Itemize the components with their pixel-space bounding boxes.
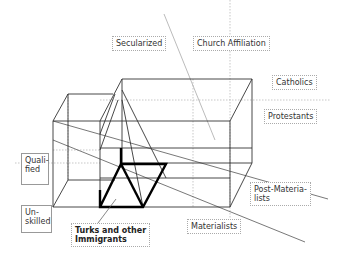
- label-turks-immigrants: Turks and other Immigrants: [71, 223, 150, 247]
- axis-lines: [53, 14, 328, 242]
- secularized-text: Secularized: [116, 39, 162, 48]
- label-catholics: Catholics: [272, 75, 317, 90]
- label-qualified: Quali- fied: [21, 153, 49, 185]
- post-materialists-text-1: Post-Materia-: [254, 185, 307, 194]
- protestants-text: Protestants: [268, 112, 313, 121]
- unskilled-text-1: Un-: [25, 208, 48, 217]
- right-box: [100, 79, 252, 207]
- label-church-affiliation: Church Affiliation: [193, 36, 270, 51]
- turks-text-2: Immigrants: [75, 235, 146, 244]
- label-unskilled: Un- skilled: [21, 205, 52, 233]
- label-post-materialists: Post-Materia- lists: [250, 182, 311, 206]
- turks-text-1: Turks and other: [75, 226, 146, 235]
- post-materialists-text-2: lists: [254, 194, 307, 203]
- label-protestants: Protestants: [264, 109, 317, 124]
- materialists-text: Materialists: [191, 222, 237, 231]
- label-materialists: Materialists: [187, 219, 241, 234]
- unskilled-text-2: skilled: [25, 217, 48, 226]
- church-affiliation-text: Church Affiliation: [197, 39, 266, 48]
- qualified-text-2: fied: [25, 165, 45, 174]
- label-secularized: Secularized: [112, 36, 166, 51]
- catholics-text: Catholics: [276, 78, 313, 87]
- qualified-text-1: Quali-: [25, 156, 45, 165]
